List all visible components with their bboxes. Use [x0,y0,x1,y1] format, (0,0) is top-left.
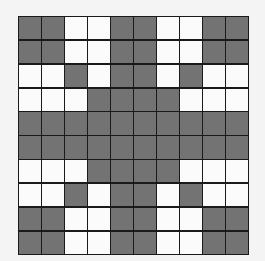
grid-cell-r3-c5 [134,89,156,111]
grid-cell-r4-c4 [111,112,133,134]
grid-cell-r8-c6 [157,208,179,230]
grid-cell-r4-c9 [226,112,248,134]
grid-cell-r8-c8 [203,208,225,230]
pattern-grid [18,16,249,255]
grid-cell-r3-c0 [19,89,41,111]
grid-cell-r3-c4 [111,89,133,111]
grid-cell-r6-c9 [226,160,248,182]
grid-cell-r2-c4 [111,65,133,87]
grid-cell-r1-c4 [111,41,133,63]
grid-cell-r5-c2 [65,136,87,158]
grid-cell-r0-c1 [42,17,64,39]
grid-cell-r3-c7 [180,89,202,111]
grid-cell-r7-c8 [203,184,225,206]
grid-cell-r5-c7 [180,136,202,158]
grid-cell-r4-c6 [157,112,179,134]
grid-cell-r3-c6 [157,89,179,111]
grid-cell-r5-c8 [203,136,225,158]
grid-cell-r8-c5 [134,208,156,230]
grid-cell-r6-c8 [203,160,225,182]
grid-cell-r8-c1 [42,208,64,230]
grid-cell-r2-c7 [180,65,202,87]
grid-cell-r5-c5 [134,136,156,158]
grid-cell-r4-c0 [19,112,41,134]
grid-cell-r9-c8 [203,232,225,254]
grid-cell-r1-c6 [157,41,179,63]
grid-cell-r0-c0 [19,17,41,39]
grid-cell-r2-c1 [42,65,64,87]
grid-cell-r3-c3 [88,89,110,111]
grid-cell-r0-c7 [180,17,202,39]
grid-cell-r6-c6 [157,160,179,182]
grid-cell-r9-c9 [226,232,248,254]
grid-cell-r1-c0 [19,41,41,63]
grid-cell-r0-c5 [134,17,156,39]
grid-cell-r7-c2 [65,184,87,206]
grid-cell-r2-c6 [157,65,179,87]
grid-cell-r9-c4 [111,232,133,254]
grid-cell-r5-c0 [19,136,41,158]
grid-cell-r7-c0 [19,184,41,206]
grid-cell-r2-c5 [134,65,156,87]
grid-cell-r6-c0 [19,160,41,182]
grid-cell-r1-c8 [203,41,225,63]
grid-cell-r8-c2 [65,208,87,230]
grid-cell-r5-c4 [111,136,133,158]
grid-cell-r8-c3 [88,208,110,230]
grid-cell-r6-c4 [111,160,133,182]
grid-cell-r9-c3 [88,232,110,254]
grid-cell-r0-c3 [88,17,110,39]
grid-cell-r4-c5 [134,112,156,134]
grid-cell-r2-c0 [19,65,41,87]
grid-cell-r7-c9 [226,184,248,206]
grid-cell-r9-c1 [42,232,64,254]
grid-cell-r3-c1 [42,89,64,111]
grid-cell-r3-c8 [203,89,225,111]
grid-cell-r5-c6 [157,136,179,158]
grid-cell-r2-c2 [65,65,87,87]
grid-cell-r4-c7 [180,112,202,134]
grid-cell-r6-c2 [65,160,87,182]
grid-cell-r9-c7 [180,232,202,254]
grid-cell-r9-c0 [19,232,41,254]
grid-cell-r7-c3 [88,184,110,206]
grid-cell-r3-c2 [65,89,87,111]
grid-cell-r2-c9 [226,65,248,87]
grid-cell-r0-c4 [111,17,133,39]
grid-cell-r6-c1 [42,160,64,182]
grid-cell-r8-c9 [226,208,248,230]
grid-cell-r0-c8 [203,17,225,39]
grid-cell-r8-c7 [180,208,202,230]
grid-cell-r6-c7 [180,160,202,182]
grid-cell-r3-c9 [226,89,248,111]
grid-cell-r2-c3 [88,65,110,87]
grid-cell-r4-c8 [203,112,225,134]
grid-cell-r1-c3 [88,41,110,63]
grid-cell-r7-c7 [180,184,202,206]
grid-cell-r4-c1 [42,112,64,134]
grid-cell-r9-c2 [65,232,87,254]
grid-cell-r5-c1 [42,136,64,158]
grid-cell-r0-c2 [65,17,87,39]
grid-cell-r6-c3 [88,160,110,182]
grid-cell-r1-c7 [180,41,202,63]
grid-cell-r5-c3 [88,136,110,158]
grid-cell-r1-c2 [65,41,87,63]
grid-cell-r8-c4 [111,208,133,230]
grid-cell-r6-c5 [134,160,156,182]
grid-cell-r1-c5 [134,41,156,63]
grid-cell-r1-c9 [226,41,248,63]
grid-cell-r0-c9 [226,17,248,39]
grid-cell-r4-c3 [88,112,110,134]
grid-cell-r8-c0 [19,208,41,230]
grid-cell-r7-c5 [134,184,156,206]
grid-cell-r1-c1 [42,41,64,63]
grid-cell-r7-c6 [157,184,179,206]
grid-cell-r0-c6 [157,17,179,39]
grid-cell-r9-c5 [134,232,156,254]
grid-cell-r7-c1 [42,184,64,206]
grid-cell-r5-c9 [226,136,248,158]
grid-cell-r2-c8 [203,65,225,87]
grid-cell-r7-c4 [111,184,133,206]
grid-cell-r9-c6 [157,232,179,254]
